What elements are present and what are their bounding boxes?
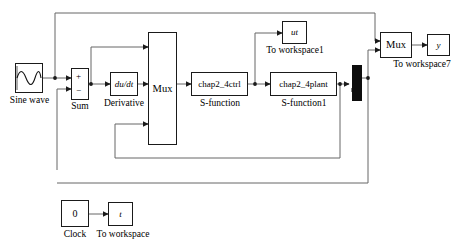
mux-bus-block[interactable]: [352, 65, 362, 101]
to-workspace-block[interactable]: t: [108, 202, 133, 226]
junction-dot: [253, 82, 257, 86]
derivative-label: Derivative: [98, 99, 150, 109]
sum-minus-sign: −: [76, 86, 81, 95]
sum-plus-sign: +: [76, 72, 81, 81]
junction-dot: [338, 82, 342, 86]
to-workspace1-block[interactable]: ut: [282, 21, 307, 44]
mux-block-2[interactable]: Mux: [380, 32, 412, 58]
sum-label: Sum: [62, 102, 98, 112]
junction-dot: [89, 82, 93, 86]
sine-wave-block[interactable]: [15, 63, 43, 93]
clock-block[interactable]: 0: [61, 200, 89, 227]
to-workspace1-label: To workspace1: [260, 46, 330, 56]
sine-wave-icon: [16, 64, 42, 92]
sine-wave-label: Sine wave: [2, 96, 57, 106]
s-function1-block[interactable]: chap2_4plant: [270, 72, 337, 96]
to-workspace7-label: To workspace7: [384, 60, 460, 70]
to-workspace7-block[interactable]: y: [427, 34, 450, 56]
derivative-block[interactable]: du/dt: [110, 72, 138, 96]
junction-dot: [53, 76, 57, 80]
simulink-diagram-canvas: Sine wave + − Sum du/dt Derivative Mux c…: [0, 0, 463, 250]
to-workspace-label: To workspace: [88, 230, 158, 240]
s-function-label: S-function: [186, 99, 254, 109]
mux-block-1[interactable]: Mux: [148, 32, 177, 145]
s-function-block[interactable]: chap2_4ctrl: [191, 72, 248, 96]
s-function1-label: S-function1: [268, 99, 340, 109]
junction-dot: [366, 76, 370, 80]
